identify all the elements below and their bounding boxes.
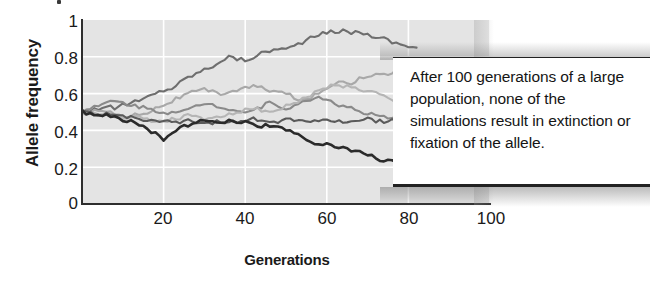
y-axis-tick-labels: 1 0.8 0.6 0.4 0.2 0 xyxy=(34,0,78,230)
y-tick-label: 0 xyxy=(38,195,78,212)
genetic-drift-figure: Allele frequency 1 0.8 0.6 0.4 0.2 0 20 … xyxy=(0,0,650,286)
callout-bottom-rule xyxy=(393,184,650,187)
y-tick-label: 0.8 xyxy=(38,50,78,67)
y-axis-line xyxy=(81,19,83,205)
y-tick-label: 0.2 xyxy=(38,161,78,178)
x-axis-line xyxy=(81,203,491,205)
x-tick-label: 20 xyxy=(133,210,193,228)
series-line xyxy=(82,29,417,113)
y-tick-label: 0.6 xyxy=(38,87,78,104)
x-tick-label: 80 xyxy=(379,210,439,228)
series-group xyxy=(82,29,417,169)
y-tick-label: 0.4 xyxy=(38,124,78,141)
x-tick-label: 100 xyxy=(461,210,521,228)
x-tick-label: 60 xyxy=(297,210,357,228)
x-axis-title: Generations xyxy=(82,251,492,268)
x-tick-label: 40 xyxy=(215,210,275,228)
y-tick-label: 1 xyxy=(38,13,78,30)
annotation-text: After 100 generations of a large populat… xyxy=(410,66,638,154)
annotation-callout: After 100 generations of a large populat… xyxy=(393,58,650,187)
